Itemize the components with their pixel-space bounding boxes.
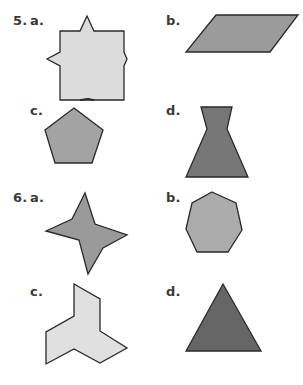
shape-5b-parallelogram bbox=[186, 15, 298, 52]
shape-5d-hourglass bbox=[186, 107, 248, 177]
shape-6c-three-arm-shape bbox=[46, 284, 127, 364]
shape-6d-triangle bbox=[186, 284, 261, 351]
shapes-canvas bbox=[0, 0, 303, 385]
shape-5a-spiked-square bbox=[47, 16, 127, 100]
shape-6a-four-point-star bbox=[46, 193, 127, 274]
shape-6b-heptagon bbox=[186, 192, 242, 252]
shape-5c-pentagon bbox=[45, 108, 103, 163]
